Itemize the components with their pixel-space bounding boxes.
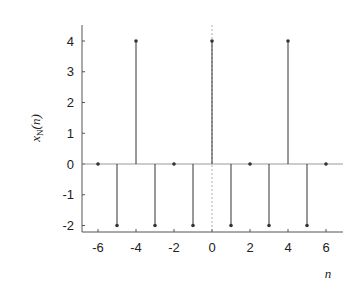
y-tick-label: -1 [62, 187, 74, 202]
x-tick-label: -2 [168, 240, 180, 255]
y-tick-label: 2 [67, 95, 74, 110]
x-tick-label: 4 [284, 240, 291, 255]
stem-marker [229, 224, 233, 228]
stem-marker [305, 224, 309, 228]
y-tick-labels: 43210-1-2 [62, 34, 74, 234]
x-tick-labels: -6-4-20246 [92, 240, 329, 255]
stem-marker [172, 162, 176, 166]
stem-marker [267, 224, 271, 228]
stem-marker [286, 39, 290, 43]
y-tick-label: 1 [67, 126, 74, 141]
y-tick-label: -2 [62, 218, 74, 233]
x-axis-title: n [325, 266, 332, 281]
y-axis-title: xN(n) [28, 114, 45, 142]
stem-marker [191, 224, 195, 228]
x-tick-label: -6 [92, 240, 104, 255]
stem-marker [324, 162, 328, 166]
x-tick-label: 2 [246, 240, 253, 255]
y-tick-label: 0 [67, 157, 74, 172]
stem-marker [96, 162, 100, 166]
stems [96, 39, 328, 227]
stem-marker [153, 224, 157, 228]
x-tick-label: 0 [208, 240, 215, 255]
y-tick-label: 4 [67, 34, 74, 49]
x-tick-label: -4 [130, 240, 142, 255]
x-tick-label: 6 [322, 240, 329, 255]
stem-marker [210, 39, 214, 43]
stem-marker [115, 224, 119, 228]
stem-marker [134, 39, 138, 43]
stem-marker [248, 162, 252, 166]
stem-chart: 43210-1-2 -6-4-20246 n xN(n) [0, 0, 362, 295]
y-tick-label: 3 [67, 64, 74, 79]
